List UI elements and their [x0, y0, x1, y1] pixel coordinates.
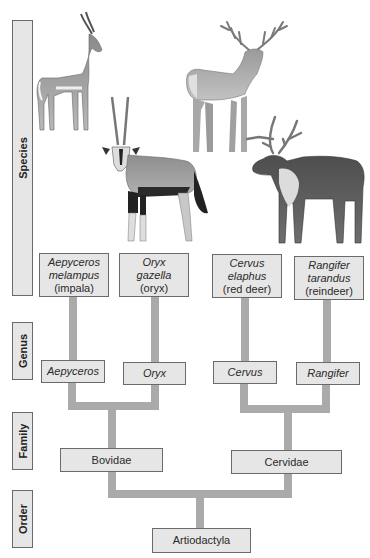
species-box-impala: Aepyceros melampus (impala) [39, 253, 109, 297]
genus-box-rangifer: Rangifer [296, 362, 360, 385]
species-epithet: tarandus [308, 272, 351, 285]
family-box-bovidae: Bovidae [60, 448, 163, 472]
genus-box-oryx: Oryx [123, 362, 186, 385]
rank-genus-label: Genus [12, 322, 33, 380]
rank-genus-text: Genus [17, 334, 29, 368]
species-common-name: (red deer) [223, 283, 271, 296]
genus-box-aepyceros: Aepyceros [41, 360, 105, 383]
species-genus-name: Rangifer [308, 259, 350, 272]
species-epithet: elaphus [228, 270, 267, 283]
order-box-artiodactyla: Artiodactyla [152, 528, 251, 553]
rank-family-text: Family [17, 424, 29, 459]
connector-oryx-oryx [151, 297, 159, 363]
species-common-name: (impala) [54, 282, 94, 295]
species-box-red-deer: Cervus elaphus (red deer) [212, 254, 282, 298]
connector-order-stem [196, 490, 204, 529]
species-common-name: (oryx) [140, 282, 168, 295]
connector-bovidae-stem [108, 402, 116, 449]
species-genus-name: Cervus [230, 257, 265, 270]
rank-order-label: Order [12, 490, 33, 548]
connector-cervidae-stem [284, 405, 292, 451]
species-epithet: melampus [49, 269, 100, 282]
reindeer-illustration-icon [245, 113, 370, 251]
connector-reddeer-cervus [241, 298, 249, 362]
species-genus-name: Oryx [142, 256, 165, 269]
family-box-cervidae: Cervidae [231, 450, 342, 474]
rank-species-label: Species [12, 20, 33, 296]
genus-box-cervus: Cervus [213, 361, 277, 384]
impala-illustration-icon [34, 8, 106, 140]
rank-species-text: Species [17, 137, 29, 179]
species-common-name: (reindeer) [305, 285, 353, 298]
rank-order-text: Order [17, 504, 29, 534]
connector-impala-aepyceros [69, 297, 77, 361]
species-box-oryx: Oryx gazella (oryx) [119, 253, 189, 297]
connector-reindeer-rangifer [323, 300, 331, 363]
species-epithet: gazella [137, 269, 172, 282]
species-genus-name: Aepyceros [48, 256, 100, 269]
oryx-illustration-icon [98, 95, 213, 245]
species-box-reindeer: Rangifer tarandus (reindeer) [294, 256, 364, 300]
rank-family-label: Family [12, 412, 33, 470]
